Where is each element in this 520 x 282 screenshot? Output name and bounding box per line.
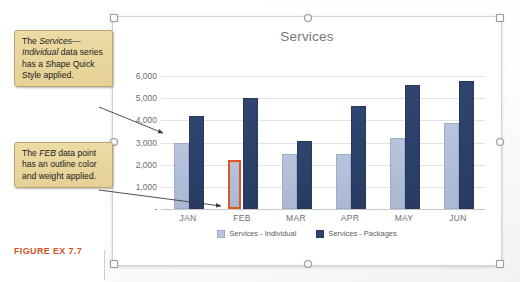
gridline	[161, 165, 485, 166]
bar-jun-individual[interactable]	[444, 123, 459, 209]
figure-caption: FIGURE EX 7.7	[14, 246, 82, 256]
chart-title[interactable]: Services	[113, 29, 501, 44]
y-axis-tick-label: -	[154, 204, 157, 214]
bar-mar-individual[interactable]	[282, 154, 297, 209]
callout-series-style: The Services—Individual data series has …	[14, 30, 113, 87]
y-axis-tick-label: 3,000	[136, 138, 157, 148]
figure-screenshot: Services -1,0002,0003,0004,0005,0006,000…	[0, 0, 520, 282]
bar-mar-packages[interactable]	[297, 141, 312, 209]
legend-swatch-icon	[217, 230, 225, 238]
callout-series-style-text: The Services—Individual data series has …	[22, 36, 103, 80]
y-axis-tick-label: 4,000	[136, 115, 157, 125]
bar-apr-packages[interactable]	[351, 106, 366, 209]
selection-handle-middle-right[interactable]	[496, 138, 504, 146]
bar-feb-packages[interactable]	[243, 98, 258, 209]
callout-datapoint-outline-text: The FEB data point has an outline color …	[22, 148, 97, 181]
x-axis-tick-label-jan: JAN	[180, 213, 197, 223]
x-axis-tick-label-feb: FEB	[233, 213, 250, 223]
gridline	[161, 98, 485, 99]
y-axis-labels[interactable]: -1,0002,0003,0004,0005,0006,000	[121, 65, 157, 209]
gridline	[161, 120, 485, 121]
x-axis-tick-label-may: MAY	[395, 213, 414, 223]
callout-text-run: The	[22, 36, 39, 46]
selection-handle-top-left[interactable]	[110, 14, 118, 22]
gridline	[161, 143, 485, 144]
plot-area[interactable]	[161, 65, 485, 209]
legend-swatch-icon	[316, 230, 324, 238]
selection-handle-bottom-center[interactable]	[304, 260, 312, 268]
chart-object[interactable]: Services -1,0002,0003,0004,0005,0006,000…	[112, 16, 502, 266]
gridline	[161, 76, 485, 77]
x-axis-line	[161, 209, 485, 210]
y-axis-tick-label: 6,000	[136, 71, 157, 81]
y-axis-tick-label: 2,000	[136, 160, 157, 170]
chart-legend[interactable]: Services - IndividualServices - Packages	[113, 229, 501, 238]
bar-may-individual[interactable]	[390, 138, 405, 209]
page-gutter-rule	[104, 250, 105, 280]
bar-jan-packages[interactable]	[189, 116, 204, 209]
chart-plot-container: Services -1,0002,0003,0004,0005,0006,000…	[113, 17, 501, 265]
selection-handle-top-right[interactable]	[496, 14, 504, 22]
bar-apr-individual[interactable]	[336, 154, 351, 209]
callout-emphasis: FEB	[39, 148, 56, 158]
y-axis-tick-label: 5,000	[136, 93, 157, 103]
callout-text-run: The	[22, 148, 39, 158]
bar-jun-packages[interactable]	[459, 81, 474, 209]
legend-label: Services - Packages	[328, 229, 396, 238]
x-axis-tick-label-apr: APR	[341, 213, 359, 223]
legend-item-packages[interactable]: Services - Packages	[316, 229, 396, 238]
bar-may-packages[interactable]	[405, 85, 420, 209]
legend-item-individual[interactable]: Services - Individual	[217, 229, 296, 238]
y-axis-tick-label: 1,000	[136, 182, 157, 192]
legend-label: Services - Individual	[229, 229, 296, 238]
selection-handle-bottom-right[interactable]	[496, 260, 504, 268]
x-axis-labels[interactable]: JANFEBMARAPRMAYJUN	[161, 213, 485, 227]
bar-feb-individual-highlighted[interactable]	[228, 160, 241, 209]
callout-datapoint-outline: The FEB data point has an outline color …	[14, 142, 113, 188]
bar-jan-individual[interactable]	[174, 143, 189, 209]
gridline	[161, 187, 485, 188]
selection-handle-top-center[interactable]	[304, 14, 312, 22]
selection-handle-bottom-left[interactable]	[110, 260, 118, 268]
x-axis-tick-label-mar: MAR	[286, 213, 306, 223]
x-axis-tick-label-jun: JUN	[449, 213, 466, 223]
